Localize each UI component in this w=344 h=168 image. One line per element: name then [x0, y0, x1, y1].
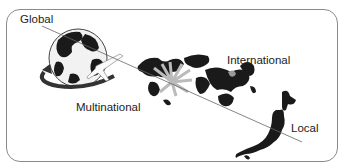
- japan-map-icon: [236, 91, 297, 160]
- globe-with-airplane-icon: [42, 29, 123, 87]
- label-multinational: Multinational: [76, 101, 141, 113]
- label-local: Local: [291, 122, 319, 134]
- label-global: Global: [20, 13, 53, 25]
- label-international: International: [227, 54, 290, 66]
- diagram-art: [0, 0, 344, 168]
